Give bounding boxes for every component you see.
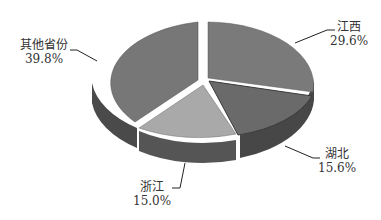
leader-jiangxi: [295, 30, 335, 43]
label-jiangxi-name: 江西: [330, 20, 368, 34]
label-other-value: 39.8%: [20, 52, 68, 66]
label-jiangxi-value: 29.6%: [330, 34, 368, 48]
slice-jiangxi: [208, 22, 314, 92]
label-zhejiang-value: 15.0%: [133, 194, 171, 208]
label-zhejiang: 浙江 15.0%: [133, 180, 171, 208]
label-other-name: 其他省份: [20, 38, 68, 52]
leader-hubei: [285, 146, 320, 158]
label-hubei-value: 15.6%: [318, 161, 356, 175]
pie-tops: [111, 22, 314, 138]
label-hubei: 湖北 15.6%: [318, 147, 356, 175]
leader-zhejiang: [172, 163, 185, 188]
label-zhejiang-name: 浙江: [133, 180, 171, 194]
leader-other: [70, 50, 97, 61]
label-other: 其他省份 39.8%: [20, 38, 68, 66]
label-jiangxi: 江西 29.6%: [330, 20, 368, 48]
label-hubei-name: 湖北: [318, 147, 356, 161]
pie-chart: [0, 0, 381, 220]
